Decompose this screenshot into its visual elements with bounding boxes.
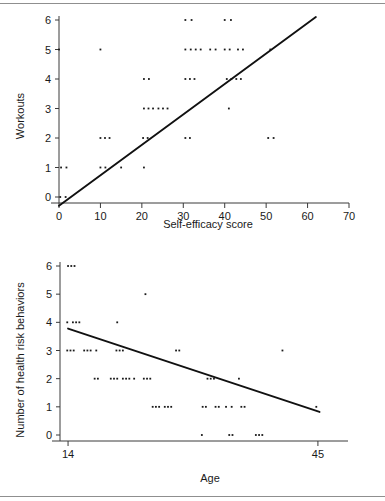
x-tick-label: 70 xyxy=(343,210,355,222)
x-tick-label: 50 xyxy=(260,210,272,222)
data-point xyxy=(148,78,150,80)
top-rule xyxy=(0,3,385,4)
y-axis-title-top: Workouts xyxy=(14,92,26,139)
regression-line-bottom xyxy=(68,329,319,412)
data-point xyxy=(133,378,135,380)
y-tick-label: 0 xyxy=(46,429,52,441)
data-point xyxy=(207,378,209,380)
data-point xyxy=(113,378,115,380)
data-point xyxy=(175,350,177,352)
y-tick-label: 6 xyxy=(45,14,51,26)
chart-health-risk-vs-age: 01234561445 Age Number of health risk be… xyxy=(0,250,385,493)
data-point xyxy=(145,293,147,295)
data-point xyxy=(152,406,154,408)
x-tick-label: 10 xyxy=(94,210,106,222)
data-points-top xyxy=(58,19,274,198)
data-point xyxy=(128,378,130,380)
data-point xyxy=(148,108,150,110)
x-tick-label: 0 xyxy=(56,210,62,222)
data-point xyxy=(67,265,69,267)
data-point xyxy=(218,406,220,408)
x-axis-title-bottom: Age xyxy=(200,472,220,484)
data-point xyxy=(231,406,233,408)
data-point xyxy=(125,378,127,380)
data-point xyxy=(87,350,89,352)
data-point xyxy=(242,49,244,51)
data-point xyxy=(75,321,77,323)
data-point xyxy=(147,137,149,139)
data-point xyxy=(58,49,60,51)
y-tick-label: 4 xyxy=(45,73,51,85)
y-tick-label: 1 xyxy=(46,401,52,413)
data-point xyxy=(66,167,68,169)
data-point xyxy=(97,378,99,380)
data-point xyxy=(142,137,144,139)
data-point xyxy=(205,406,207,408)
data-point xyxy=(116,350,118,352)
data-point xyxy=(66,321,68,323)
data-point xyxy=(202,406,204,408)
axes-top: 0123456010203040506070 xyxy=(45,14,355,222)
data-point xyxy=(240,406,242,408)
data-point xyxy=(70,350,72,352)
data-point xyxy=(240,78,242,80)
data-point xyxy=(100,137,102,139)
data-point xyxy=(143,78,145,80)
x-tick-label: 45 xyxy=(312,448,324,460)
data-point xyxy=(191,19,193,21)
data-point xyxy=(119,350,121,352)
y-tick-label: 3 xyxy=(45,103,51,115)
data-point xyxy=(178,350,180,352)
data-point xyxy=(184,19,186,21)
data-point xyxy=(224,49,226,51)
data-point xyxy=(261,434,263,436)
data-point xyxy=(215,49,217,51)
data-point xyxy=(116,378,118,380)
data-point xyxy=(149,378,151,380)
y-axis-title-bottom: Number of health risk behaviors xyxy=(14,282,26,438)
data-point xyxy=(73,350,75,352)
data-point xyxy=(143,378,145,380)
data-point xyxy=(152,108,154,110)
x-tick-label: 20 xyxy=(136,210,148,222)
data-point xyxy=(60,167,62,169)
data-point xyxy=(65,196,67,198)
data-point xyxy=(70,265,72,267)
data-point xyxy=(72,321,74,323)
data-point xyxy=(155,406,157,408)
x-axis-title-top: Self-efficacy score xyxy=(163,218,253,230)
data-point xyxy=(143,167,145,169)
y-tick-label: 1 xyxy=(45,162,51,174)
data-point xyxy=(184,137,186,139)
data-point xyxy=(164,406,166,408)
data-point xyxy=(200,49,202,51)
data-point xyxy=(90,350,92,352)
y-tick-label: 4 xyxy=(46,316,52,328)
chart-workouts-vs-self-efficacy: 0123456010203040506070 Self-efficacy sco… xyxy=(0,8,385,243)
scatter-plot-top: 0123456010203040506070 Self-efficacy sco… xyxy=(0,8,385,243)
data-point xyxy=(116,321,118,323)
data-point xyxy=(228,108,230,110)
y-tick-label: 6 xyxy=(46,260,52,272)
data-point xyxy=(122,350,124,352)
data-point xyxy=(162,108,164,110)
y-tick-label: 5 xyxy=(45,44,51,56)
data-point xyxy=(194,78,196,80)
data-point xyxy=(143,108,145,110)
data-point xyxy=(105,167,107,169)
y-tick-label: 0 xyxy=(45,191,51,203)
data-point xyxy=(184,78,186,80)
figure-page: 0123456010203040506070 Self-efficacy sco… xyxy=(0,0,385,501)
y-tick-label: 2 xyxy=(46,373,52,385)
data-point xyxy=(201,434,203,436)
data-point xyxy=(226,78,228,80)
data-point xyxy=(184,49,186,51)
y-tick-label: 5 xyxy=(46,288,52,300)
data-point xyxy=(109,137,111,139)
data-point xyxy=(78,321,80,323)
data-point xyxy=(267,137,269,139)
data-point xyxy=(146,378,148,380)
data-point xyxy=(189,137,191,139)
data-point xyxy=(110,378,112,380)
data-point xyxy=(120,167,122,169)
